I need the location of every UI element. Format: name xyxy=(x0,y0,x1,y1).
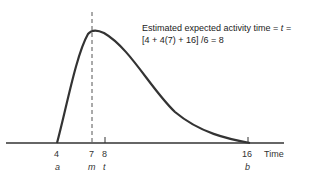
symbol-t: t xyxy=(103,163,106,172)
formula-line-2: [4 + 4(7) + 16] /6 = 8 xyxy=(142,36,224,45)
formula-variable: t xyxy=(281,23,284,33)
symbol-a: a xyxy=(55,163,60,172)
distribution-curve xyxy=(57,31,250,144)
symbol-m: m xyxy=(88,163,96,172)
tick-label-16: 16 xyxy=(242,150,252,159)
tick-label-7: 7 xyxy=(89,150,94,159)
axis-label-time: Time xyxy=(264,150,284,159)
tick-label-8: 8 xyxy=(102,150,107,159)
symbol-b: b xyxy=(245,163,250,172)
formula-label: Estimated expected activity time xyxy=(142,23,271,33)
formula-line-1: Estimated expected activity time = t = xyxy=(142,24,291,33)
tick-label-4: 4 xyxy=(54,150,59,159)
